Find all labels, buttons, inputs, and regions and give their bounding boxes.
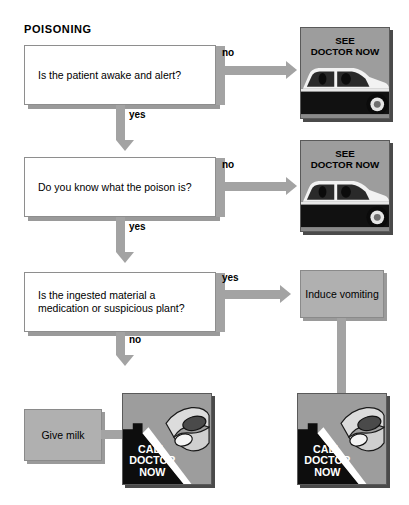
svg-text:DOCTOR NOW: DOCTOR NOW [311, 46, 380, 57]
edge-q1-no-arrowhead [286, 61, 297, 79]
edge-label-yes-3: yes [222, 272, 239, 283]
svg-text:SEE: SEE [335, 148, 355, 159]
edge-q2-no-line [216, 182, 286, 191]
edge-label-no-1: no [222, 47, 234, 58]
edge-give-milk-to-call-line [101, 430, 124, 439]
edge-q3-yes-arrowhead [280, 285, 291, 303]
edge-q3-yes-line [216, 290, 280, 299]
edge-q2-yes-arrowhead [116, 252, 134, 263]
svg-text:SEE: SEE [335, 35, 355, 46]
flowchart-canvas: POISONING Is the patient awake and alert… [0, 0, 409, 505]
call-doctor-now-illustration-2: CALL DOCTOR NOW [298, 394, 386, 484]
see-doctor-now-illustration-1: SEE DOCTOR NOW [301, 28, 389, 118]
edge-label-yes-1: yes [129, 109, 146, 120]
svg-text:DOCTOR: DOCTOR [304, 454, 351, 466]
edge-label-no-2: no [222, 159, 234, 170]
edge-q2-yes-stem [116, 217, 125, 252]
edge-q1-yes-arrowhead [116, 140, 134, 151]
svg-text:CALL: CALL [313, 443, 342, 455]
edge-label-yes-2: yes [129, 221, 146, 232]
edge-label-no-3: no [129, 334, 141, 345]
outcome-image-see-doctor-now-2[interactable]: SEE DOCTOR NOW [300, 140, 390, 232]
svg-text:DOCTOR: DOCTOR [129, 454, 176, 466]
svg-text:CALL: CALL [138, 443, 167, 455]
question-box-2[interactable]: Do you know what the poison is? [24, 157, 216, 217]
edge-q1-no-line [216, 66, 286, 75]
question-1-text: Is the patient awake and alert? [38, 69, 207, 82]
edge-q3-no-arrowhead [116, 355, 134, 366]
page-title: POISONING [24, 23, 92, 35]
see-doctor-now-illustration-2: SEE DOCTOR NOW [301, 141, 389, 231]
question-box-1[interactable]: Is the patient awake and alert? [24, 45, 216, 105]
outcome-image-call-doctor-now-2[interactable]: CALL DOCTOR NOW [297, 393, 387, 485]
question-box-3[interactable]: Is the ingested material a medication or… [24, 272, 216, 332]
edge-q3-no-stem [116, 332, 125, 355]
outcome-image-see-doctor-now-1[interactable]: SEE DOCTOR NOW [300, 27, 390, 119]
edge-induce-to-call-stem [337, 318, 346, 398]
outcome-image-call-doctor-now-1[interactable]: CALL DOCTOR NOW [122, 393, 212, 485]
edge-q1-yes-stem [116, 105, 125, 140]
edge-q2-no-arrowhead [286, 177, 297, 195]
question-3-text: Is the ingested material a medication or… [38, 289, 207, 315]
svg-text:NOW: NOW [314, 466, 341, 478]
svg-text:DOCTOR NOW: DOCTOR NOW [311, 159, 380, 170]
call-doctor-now-illustration-1: CALL DOCTOR NOW [123, 394, 211, 484]
svg-text:NOW: NOW [139, 466, 166, 478]
action-give-milk-text: Give milk [41, 429, 84, 442]
action-box-give-milk[interactable]: Give milk [24, 409, 102, 461]
action-box-induce-vomiting[interactable]: Induce vomiting [300, 270, 384, 318]
question-2-text: Do you know what the poison is? [38, 181, 207, 194]
action-induce-vomiting-text: Induce vomiting [305, 288, 379, 301]
